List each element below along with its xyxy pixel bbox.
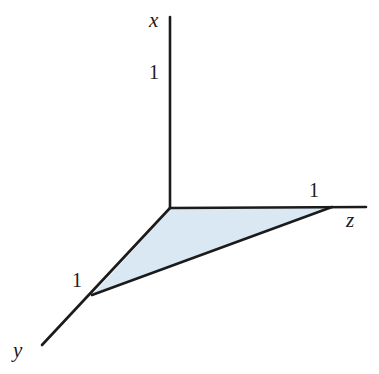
z-axis-line: [170, 207, 366, 208]
coordinate-axes-drawing: [0, 0, 379, 374]
y-axis-tick-label-1: 1: [72, 270, 82, 290]
y-axis-label: y: [13, 340, 22, 361]
y-axis-line: [42, 208, 170, 345]
x-axis-tick-label-1: 1: [149, 62, 159, 82]
z-axis-tick-label-1: 1: [309, 180, 319, 200]
figure-canvas: x y z 1 1 1: [0, 0, 379, 374]
z-axis-label: z: [346, 210, 354, 231]
x-axis-label: x: [149, 10, 158, 31]
